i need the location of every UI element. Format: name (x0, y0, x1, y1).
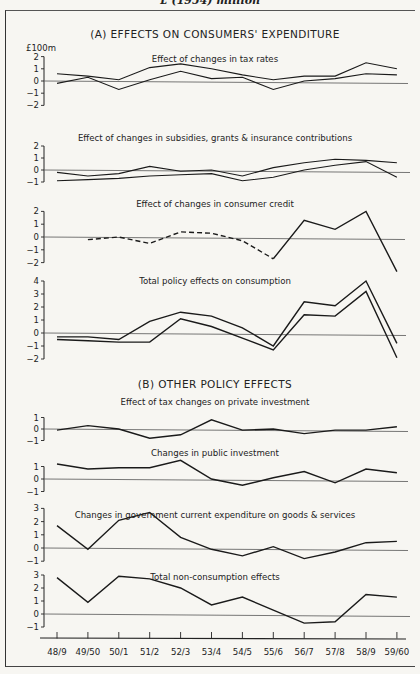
y-tick-label: 0 (34, 328, 39, 338)
y-tick-label: −1 (26, 436, 39, 446)
series-line (57, 281, 397, 346)
chart-title: Effect of changes in subsidies, grants &… (78, 133, 353, 143)
y-tick-label: 2 (34, 302, 39, 312)
chart-title: Total non-consumption effects (149, 572, 280, 582)
y-tick-label: 1 (34, 462, 39, 472)
x-tick-label: 59/60 (385, 647, 410, 657)
y-tick-label: 1 (34, 64, 39, 74)
y-tick-label: −2 (26, 100, 39, 110)
y-tick-label: 2 (34, 141, 39, 151)
chart-title: Effect of changes in consumer credit (136, 199, 294, 209)
y-tick-label: −1 (26, 341, 39, 351)
x-axis: 48/949/5050/151/252/353/454/555/656/757/… (40, 632, 409, 657)
chart-panel: Effect of changes in tax rates210−1−2 (26, 52, 408, 111)
x-tick-label: 50/1 (109, 647, 128, 657)
chart-panels: Effect of changes in tax rates210−1−2Eff… (26, 52, 410, 632)
section-b-title: (B) OTHER POLICY EFFECTS (138, 378, 292, 390)
y-tick-label: 2 (34, 52, 39, 62)
series-line (57, 291, 397, 357)
y-tick-label: 0 (34, 165, 39, 175)
series-line (57, 159, 397, 176)
x-tick-label: 52/3 (171, 647, 190, 657)
chart-title: Effect of tax changes on private investm… (121, 397, 310, 407)
chart-panel: Total policy effects on consumption43210… (26, 276, 406, 364)
y-tick-label: 1 (34, 315, 39, 325)
series-line (273, 211, 397, 271)
y-tick-label: 0 (34, 424, 39, 434)
y-tick-label: 0 (34, 609, 39, 619)
chart-panel: Changes in public investment10−1 (26, 448, 408, 497)
y-tick-label: 2 (34, 517, 39, 527)
y-tick-label: 3 (34, 503, 39, 513)
y-tick-label: 0 (34, 232, 39, 242)
figure-canvas: (A) EFFECTS ON CONSUMERS' EXPENDITURE £1… (0, 0, 420, 674)
y-tick-label: 1 (34, 219, 39, 229)
y-tick-label: −1 (26, 245, 39, 255)
x-tick-label: 48/9 (47, 647, 66, 657)
y-tick-label: −2 (26, 354, 39, 364)
series-line (57, 420, 397, 438)
zero-line (44, 479, 408, 482)
y-tick-label: 1 (34, 596, 39, 606)
y-tick-label: 2 (34, 583, 39, 593)
x-tick-label: 56/7 (295, 647, 314, 657)
y-tick-label: −1 (26, 622, 39, 632)
chart-title: Changes in government current expenditur… (75, 510, 356, 520)
y-tick-label: 0 (34, 543, 39, 553)
y-tick-label: −1 (26, 487, 39, 497)
x-tick-label: 49/50 (76, 647, 101, 657)
y-tick-label: 3 (34, 289, 39, 299)
series-line (88, 232, 273, 259)
chart-panel: Total non-consumption effects3210−1 (26, 570, 410, 632)
y-tick-label: 1 (34, 530, 39, 540)
y-tick-label: 0 (34, 474, 39, 484)
zero-line (44, 548, 408, 551)
unit-label: £100m (26, 43, 56, 53)
y-tick-label: −1 (26, 177, 39, 187)
zero-line (44, 170, 410, 173)
y-tick-label: 1 (34, 413, 39, 423)
x-tick-label: 54/5 (233, 647, 252, 657)
section-a-title: (A) EFFECTS ON CONSUMERS' EXPENDITURE (90, 28, 340, 40)
y-tick-label: −1 (26, 556, 39, 566)
y-tick-label: 3 (34, 570, 39, 580)
x-tick-label: 58/9 (356, 647, 375, 657)
y-tick-label: 2 (34, 206, 39, 216)
y-tick-label: 1 (34, 153, 39, 163)
y-tick-label: 4 (34, 276, 39, 286)
y-tick-label: 0 (34, 76, 39, 86)
y-tick-label: −2 (26, 258, 39, 268)
y-tick-label: −1 (26, 88, 39, 98)
series-line (57, 460, 397, 485)
series-line (57, 71, 397, 89)
x-tick-label: 53/4 (202, 647, 221, 657)
zero-line (44, 614, 410, 617)
chart-panel: Effect of changes in subsidies, grants &… (26, 133, 410, 187)
x-tick-label: 51/2 (140, 647, 159, 657)
chart-title: Effect of changes in tax rates (152, 54, 279, 64)
x-tick-label: 55/6 (264, 647, 283, 657)
chart-panel: Effect of tax changes on private investm… (26, 397, 408, 446)
chart-title: Total policy effects on consumption (138, 276, 291, 286)
chart-panel: Effect of changes in consumer credit210−… (26, 199, 405, 272)
chart-panel: Changes in government current expenditur… (26, 503, 408, 566)
chart-title: Changes in public investment (151, 448, 279, 458)
x-tick-label: 57/8 (325, 647, 344, 657)
zero-line (44, 333, 406, 336)
